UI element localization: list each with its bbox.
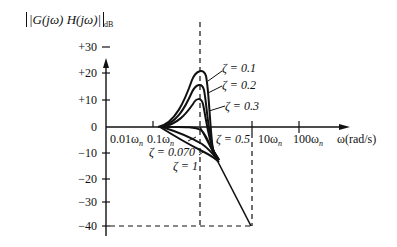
x-tick-sub: n <box>278 139 282 148</box>
curve-label-zeta-0.2: ζ = 0.2 <box>222 79 256 91</box>
x-tick-main: 100ω <box>293 132 319 146</box>
y-tick-label: +10 <box>57 94 97 106</box>
y-tick-label: +30 <box>57 41 97 53</box>
x-axis-title: ω(rad/s) <box>337 133 376 145</box>
y-axis-title-subscript: dB <box>104 20 113 29</box>
curve-label-zeta-0.5: ζ = 0.5 <box>216 133 250 145</box>
x-tick-label: 100ωn <box>293 133 323 150</box>
guide-lines <box>110 22 252 226</box>
curve-label-zeta-1: ζ = 1 <box>173 160 198 172</box>
x-tick-label: 10ωn <box>258 133 282 150</box>
x-tick-label: 0.01ωn <box>110 133 143 150</box>
curve-label-zeta-0.1: ζ = 0.1 <box>222 62 256 74</box>
curve-label-zeta-0.070: ζ = 0.070 <box>149 146 195 158</box>
y-tick-label: −20 <box>57 173 97 185</box>
x-tick-main: 0.1ω <box>147 132 170 146</box>
x-axis-arrow-icon <box>339 124 350 130</box>
x-tick-sub: n <box>139 139 143 148</box>
y-axis-title: |G(jω) H(jω)|dB <box>26 14 113 31</box>
x-tick-sub: n <box>319 139 323 148</box>
x-tick-main: 0.01ω <box>110 132 139 146</box>
y-tick-label: −40 <box>57 220 97 232</box>
x-tick-main: 10ω <box>258 132 278 146</box>
y-axis-arrow-icon <box>103 58 109 68</box>
curve-label-zeta-0.3: ζ = 0.3 <box>225 100 259 112</box>
y-tick-label: 0 <box>57 121 97 133</box>
y-tick-label: −30 <box>57 196 97 208</box>
y-tick-label: +20 <box>57 67 97 79</box>
y-axis-title-main: |G(jω) H(jω)| <box>26 12 104 27</box>
y-tick-label: −10 <box>57 147 97 159</box>
bode-plot: |G(jω) H(jω)|dB +30 +20 +10 0 −10 −20 −3… <box>0 0 397 247</box>
